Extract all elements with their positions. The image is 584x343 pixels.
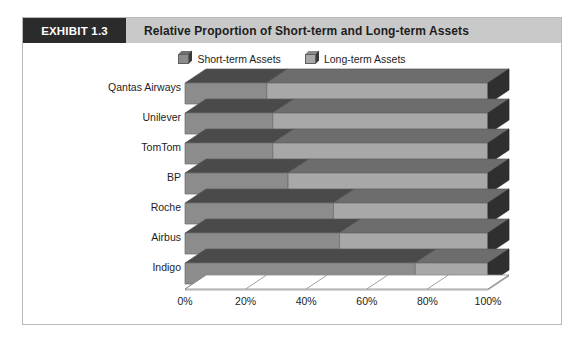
screenshot-root: EXHIBIT 1.3 Relative Proportion of Short… — [0, 0, 584, 343]
exhibit-tag: EXHIBIT 1.3 — [23, 18, 126, 43]
exhibit-header: EXHIBIT 1.3 Relative Proportion of Short… — [23, 18, 561, 43]
category-label-qantas-airways: Qantas Airways — [108, 81, 181, 93]
category-label-indigo: Indigo — [152, 261, 181, 273]
category-label-tomtom: TomTom — [141, 141, 181, 153]
x-tick-label: 40% — [296, 295, 317, 307]
stacked-bar-chart — [23, 43, 561, 324]
category-label-airbus: Airbus — [151, 231, 181, 243]
exhibit-card: EXHIBIT 1.3 Relative Proportion of Short… — [22, 17, 562, 325]
x-tick-label: 0% — [177, 295, 192, 307]
chart-body: Short-term Assets Long-term Assets Qanta… — [23, 43, 561, 324]
x-tick-label: 60% — [356, 295, 377, 307]
x-tick-label: 80% — [417, 295, 438, 307]
category-label-roche: Roche — [151, 201, 181, 213]
category-label-unilever: Unilever — [142, 111, 181, 123]
exhibit-title: Relative Proportion of Short-term and Lo… — [126, 18, 561, 43]
x-tick-label: 100% — [475, 295, 502, 307]
x-tick-label: 20% — [235, 295, 256, 307]
category-label-bp: BP — [167, 171, 181, 183]
